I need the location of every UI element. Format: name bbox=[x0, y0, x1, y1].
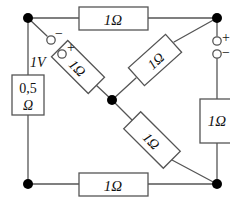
node-bottom-right bbox=[212, 179, 222, 189]
upper-left-diagonal-resistor: 1Ω bbox=[51, 40, 104, 93]
right-source-terminal-negative[interactable] bbox=[213, 50, 221, 58]
lower-right-diagonal-resistor: 1Ω bbox=[124, 112, 181, 169]
right-source: + − 1V bbox=[213, 30, 230, 60]
left-source-positive-sign: + bbox=[67, 40, 75, 55]
left-source-negative-sign: − bbox=[55, 26, 63, 41]
left-resistor-label-value: 0,5 bbox=[19, 81, 37, 96]
top-resistor: 1Ω bbox=[79, 7, 148, 30]
left-source-terminal-positive[interactable] bbox=[58, 50, 66, 58]
left-source-value-label: 1V bbox=[30, 55, 47, 70]
node-bottom-left bbox=[23, 179, 33, 189]
wire-lower-right-diagonal-to-bottom-right bbox=[172, 160, 217, 184]
wire-upper-right-diagonal-to-top-right bbox=[174, 18, 217, 42]
right-source-positive-sign: + bbox=[222, 30, 230, 45]
left-resistor-label-unit: Ω bbox=[23, 98, 33, 113]
right-source-negative-sign: − bbox=[222, 45, 230, 60]
left-source-terminal-negative[interactable] bbox=[47, 36, 55, 44]
node-top-left bbox=[23, 13, 33, 23]
bottom-resistor-label: 1Ω bbox=[104, 178, 123, 194]
right-source-terminal-positive[interactable] bbox=[213, 37, 221, 45]
right-resistor: 1Ω bbox=[200, 99, 230, 143]
circuit-diagram: 1Ω 1Ω 1Ω 0,5 Ω 1Ω 1Ω 1Ω − + 1V bbox=[0, 0, 230, 201]
bottom-resistor: 1Ω bbox=[79, 173, 148, 196]
left-resistor: 0,5 Ω bbox=[12, 75, 44, 115]
node-top-right bbox=[212, 13, 222, 23]
node-center bbox=[107, 95, 117, 105]
top-resistor-label: 1Ω bbox=[104, 12, 123, 28]
right-resistor-label: 1Ω bbox=[208, 113, 227, 129]
